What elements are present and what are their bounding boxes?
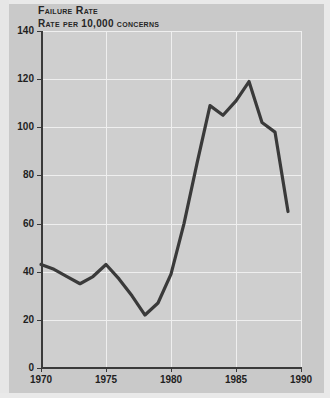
frame-border-left (0, 0, 9, 398)
x-axis-tick (41, 368, 42, 372)
x-axis-tick-label: 1980 (151, 374, 191, 385)
x-axis-tick-label: 1970 (21, 374, 61, 385)
y-axis-tick-label: 60 (4, 218, 34, 229)
frame-border-bottom (0, 393, 330, 398)
x-axis-tick-label: 1990 (281, 374, 321, 385)
failure-rate-polyline (41, 82, 288, 315)
x-axis-tick (301, 368, 302, 372)
x-axis-tick-label: 1975 (86, 374, 126, 385)
chart-title: Failure Rate (38, 4, 159, 17)
x-axis-tick (236, 368, 237, 372)
y-axis-tick-label: 120 (4, 73, 34, 84)
y-axis-tick-label: 0 (4, 362, 34, 373)
frame-border-right (324, 0, 330, 398)
data-series-line (41, 31, 301, 368)
y-axis-tick-label: 20 (4, 314, 34, 325)
y-axis-tick-label: 140 (4, 25, 34, 36)
x-axis-tick (106, 368, 107, 372)
gridline-vertical (301, 31, 302, 368)
x-axis-tick (171, 368, 172, 372)
x-axis-tick-label: 1985 (216, 374, 256, 385)
chart-subtitle: Rate per 10,000 concerns (38, 17, 159, 30)
y-axis-tick-label: 40 (4, 266, 34, 277)
y-axis-tick-label: 100 (4, 121, 34, 132)
y-axis-tick-label: 80 (4, 169, 34, 180)
chart-title-block: Failure Rate Rate per 10,000 concerns (38, 4, 159, 30)
chart-figure: Failure Rate Rate per 10,000 concerns 02… (0, 0, 330, 398)
